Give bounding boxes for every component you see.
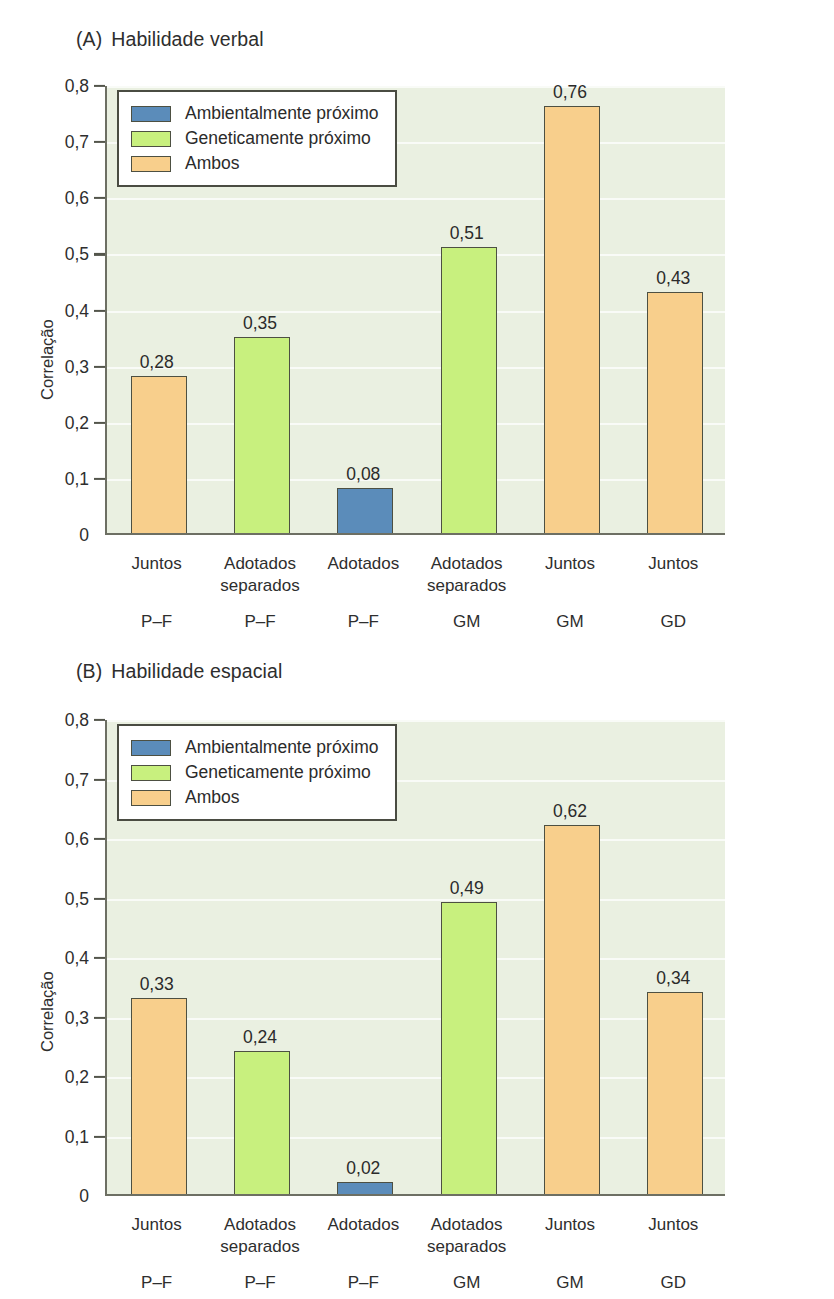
- y-tick-label: 0,5: [65, 888, 89, 909]
- legend-label: Ambientalmente próximo: [185, 737, 379, 758]
- gridline: [107, 86, 725, 88]
- bar[interactable]: [131, 998, 187, 1194]
- x-axis-group-label: GM: [453, 1273, 480, 1293]
- x-axis-category-line: separados: [427, 1236, 506, 1258]
- y-tick-label: 0,6: [65, 188, 89, 209]
- bar[interactable]: [337, 488, 393, 533]
- legend-item[interactable]: Geneticamente próximo: [131, 126, 379, 151]
- x-axis-category-line: Adotados: [220, 1214, 299, 1236]
- x-axis-category-label: Adotadosseparados: [427, 1214, 506, 1258]
- gridline: [107, 1077, 725, 1079]
- bar[interactable]: [441, 902, 497, 1194]
- x-axis-category-line: Juntos: [132, 1214, 182, 1236]
- x-axis-group-label: P–F: [244, 612, 275, 632]
- x-axis-group-label: GM: [453, 612, 480, 632]
- y-tick-label: 0,1: [65, 1126, 89, 1147]
- legend-label: Ambos: [185, 787, 239, 808]
- y-tick-mark: [94, 1076, 105, 1078]
- y-axis-title-a: Correlação: [38, 319, 57, 400]
- y-tick-mark: [94, 141, 105, 143]
- bar[interactable]: [544, 825, 600, 1194]
- bar[interactable]: [337, 1182, 393, 1194]
- x-axis-category-label: Juntos: [545, 1214, 595, 1236]
- x-axis-category-label: Adotadosseparados: [220, 1214, 299, 1258]
- bar[interactable]: [234, 1051, 290, 1194]
- legend-swatch-both: [131, 790, 171, 806]
- y-tick-mark: [94, 1016, 105, 1018]
- y-tick-mark: [94, 897, 105, 899]
- gridline: [107, 311, 725, 313]
- y-tick-mark: [94, 85, 105, 87]
- y-tick-label: 0,8: [65, 710, 89, 731]
- gridline: [107, 198, 725, 200]
- legend-b: Ambientalmente próximoGeneticamente próx…: [117, 724, 397, 821]
- bar[interactable]: [647, 992, 703, 1194]
- bar[interactable]: [234, 337, 290, 533]
- legend-label: Geneticamente próximo: [185, 762, 371, 783]
- bar[interactable]: [647, 292, 703, 533]
- x-axis-group-label: P–F: [348, 612, 379, 632]
- y-tick-mark: [94, 778, 105, 780]
- x-axis-category-label: Adotadosseparados: [220, 553, 299, 597]
- legend-item[interactable]: Ambos: [131, 151, 379, 176]
- y-axis-title-b: Correlação: [38, 971, 57, 1052]
- x-axis-group-label: P–F: [141, 1273, 172, 1293]
- y-tick-mark: [94, 422, 105, 424]
- x-axis-group-label: P–F: [244, 1273, 275, 1293]
- legend-item[interactable]: Ambientalmente próximo: [131, 735, 379, 760]
- gridline: [107, 1137, 725, 1139]
- bar-value-label: 0,24: [243, 1027, 277, 1048]
- legend-label: Ambientalmente próximo: [185, 103, 379, 124]
- y-tick-mark: [94, 309, 105, 311]
- chart-a: Correlação 00,10,20,30,40,50,60,70,8 0,2…: [0, 0, 834, 650]
- x-axis-category-label: Juntos: [545, 553, 595, 575]
- y-tick-label: 0: [79, 525, 89, 546]
- x-axis-category-line: Juntos: [132, 553, 182, 575]
- panel-habilidade-espacial: (B)Habilidade espacial Correlação 00,10,…: [0, 632, 834, 1299]
- y-tick-mark: [94, 719, 105, 721]
- x-axis-category-line: separados: [220, 575, 299, 597]
- y-tick-mark: [94, 1135, 105, 1137]
- legend-swatch-both: [131, 156, 171, 172]
- bar-value-label: 0,34: [656, 968, 690, 989]
- legend-item[interactable]: Ambos: [131, 785, 379, 810]
- x-axis-group-label: P–F: [348, 1273, 379, 1293]
- y-tick-label: 0: [79, 1186, 89, 1207]
- bar[interactable]: [441, 247, 497, 533]
- legend-label: Ambos: [185, 153, 239, 174]
- gridline: [107, 958, 725, 960]
- bar[interactable]: [131, 376, 187, 533]
- x-axis-category-line: Juntos: [545, 1214, 595, 1236]
- y-tick-mark: [94, 366, 105, 368]
- legend-item[interactable]: Geneticamente próximo: [131, 760, 379, 785]
- legend-item[interactable]: Ambientalmente próximo: [131, 101, 379, 126]
- bar-value-label: 0,28: [140, 352, 174, 373]
- bar-value-label: 0,62: [553, 801, 587, 822]
- x-axis-group-label: GD: [661, 1273, 687, 1293]
- x-axis-category-label: Juntos: [648, 1214, 698, 1236]
- bar-value-label: 0,02: [346, 1158, 380, 1179]
- bar[interactable]: [544, 106, 600, 533]
- gridline: [107, 720, 725, 722]
- x-axis-group-label: GM: [556, 1273, 583, 1293]
- legend-swatch-genetic: [131, 765, 171, 781]
- x-axis-category-label: Juntos: [132, 1214, 182, 1236]
- x-axis-category-label: Adotadosseparados: [427, 553, 506, 597]
- x-axis-group-label: GM: [556, 612, 583, 632]
- x-axis-category-label: Adotados: [327, 553, 399, 575]
- gridline: [107, 254, 725, 256]
- y-tick-mark: [94, 197, 105, 199]
- y-tick-label: 0,2: [65, 412, 89, 433]
- x-axis-category-label: Juntos: [648, 553, 698, 575]
- gridline: [107, 479, 725, 481]
- y-tick-label: 0,3: [65, 1007, 89, 1028]
- x-axis-category-line: Juntos: [545, 553, 595, 575]
- y-tick-mark: [94, 957, 105, 959]
- y-tick-label: 0,7: [65, 769, 89, 790]
- x-axis-category-label: Juntos: [132, 553, 182, 575]
- bar-value-label: 0,76: [553, 82, 587, 103]
- y-tick-label: 0,2: [65, 1067, 89, 1088]
- bar-value-label: 0,43: [656, 268, 690, 289]
- gridline: [107, 367, 725, 369]
- chart-b: Correlação 00,10,20,30,40,50,60,70,8 0,3…: [0, 632, 834, 1299]
